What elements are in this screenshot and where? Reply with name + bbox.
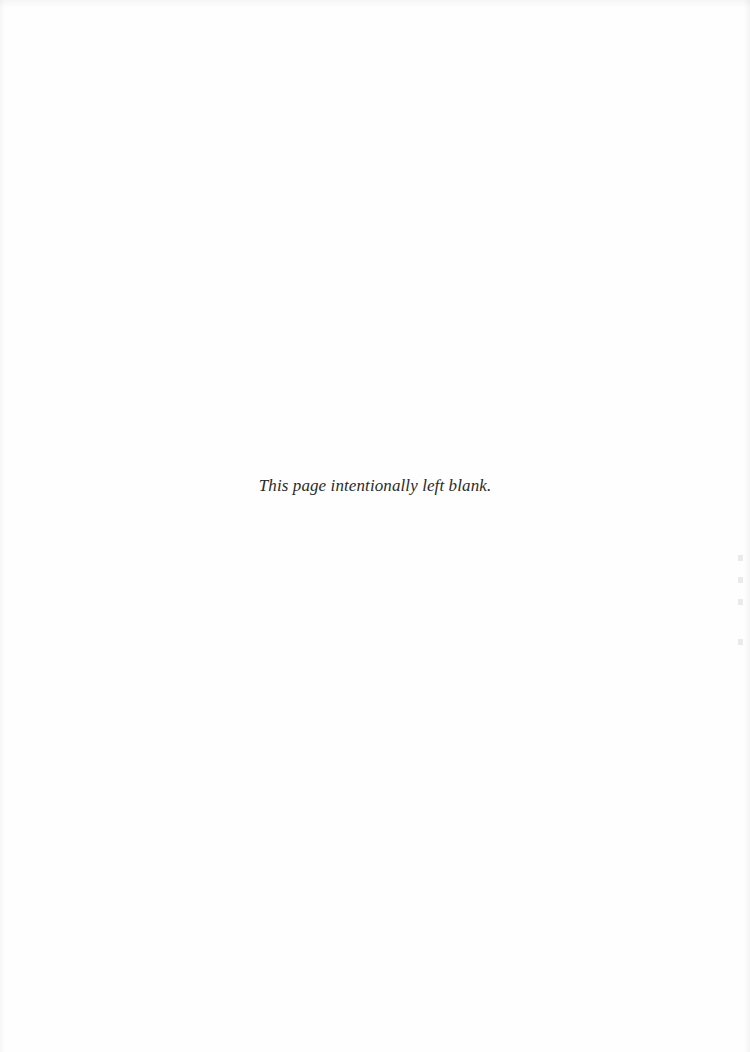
scan-right-edge-shadow [744, 0, 750, 1052]
blank-page-notice: This page intentionally left blank. [0, 476, 750, 496]
scan-right-margin-marks [738, 555, 744, 645]
scan-top-show-through [0, 0, 750, 8]
document-page: This page intentionally left blank. [0, 0, 750, 1052]
scan-left-edge-shadow [0, 0, 5, 1052]
